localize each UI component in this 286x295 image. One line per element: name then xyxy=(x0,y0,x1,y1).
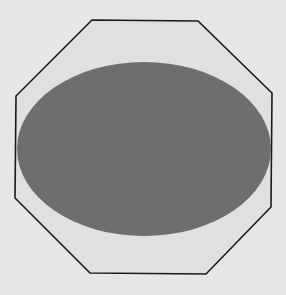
inscribed-ellipse-shape xyxy=(17,62,271,236)
diagram-canvas xyxy=(0,0,286,295)
shape-drawing xyxy=(0,0,286,295)
